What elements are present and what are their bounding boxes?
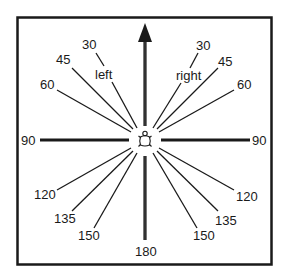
label-left-120: 120	[34, 187, 56, 202]
turtle-icon	[139, 131, 152, 146]
label-left-60: 60	[40, 77, 54, 92]
label-right-45: 45	[218, 54, 232, 69]
ray-left-150	[94, 153, 137, 228]
turtle-angle-diagram: 30 left 45 60 90 120 135 150 30 right 45…	[0, 0, 289, 278]
label-left-45: 45	[56, 52, 70, 67]
ray-right-150	[153, 153, 197, 228]
arrow-up-icon	[138, 23, 152, 42]
ray-left-135	[72, 151, 133, 211]
ray-left-30	[96, 53, 104, 66]
label-left: left	[95, 67, 113, 82]
ray-right-135	[157, 151, 218, 211]
label-left-30: 30	[82, 37, 96, 52]
label-right-135: 135	[215, 213, 237, 228]
label-left-150: 150	[78, 228, 100, 243]
label-right: right	[176, 68, 202, 83]
label-right-90: 90	[252, 133, 266, 148]
label-left-90: 90	[21, 133, 35, 148]
label-right-150: 150	[193, 228, 215, 243]
ray-right-120	[159, 148, 234, 190]
ray-right-30-inner	[153, 83, 181, 128]
ray-right-60	[159, 90, 234, 132]
ray-right-30	[190, 53, 198, 68]
label-right-60: 60	[237, 77, 251, 92]
label-bottom-180: 180	[135, 244, 157, 259]
label-right-30: 30	[196, 38, 210, 53]
label-left-135: 135	[54, 211, 76, 226]
label-right-120: 120	[236, 189, 258, 204]
